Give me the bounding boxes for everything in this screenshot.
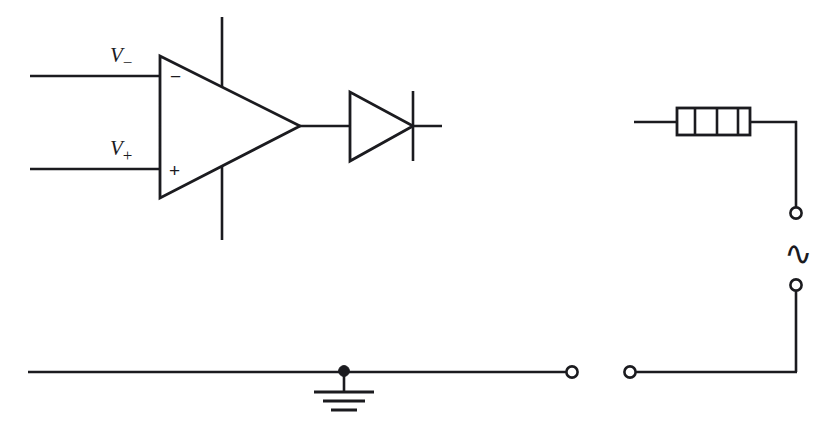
output-terminal-left[interactable] bbox=[566, 366, 577, 377]
ac-terminal-bottom[interactable] bbox=[790, 279, 801, 290]
opamp-inverting-sign: − bbox=[170, 66, 181, 87]
output-terminal-right[interactable] bbox=[624, 366, 635, 377]
diode-anode-triangle bbox=[350, 92, 413, 161]
diode-group bbox=[299, 91, 442, 161]
load-branch-group: ∿ bbox=[624, 108, 812, 378]
inverting-input-label: V− bbox=[110, 43, 132, 72]
noninverting-input-label-sub: + bbox=[123, 146, 133, 165]
opamp-group: − + V− V+ bbox=[30, 17, 300, 240]
circuit-diagram: − + V− V+ bbox=[0, 0, 830, 429]
noninverting-input-label: V+ bbox=[110, 136, 132, 165]
ac-terminal-top[interactable] bbox=[790, 207, 801, 218]
opamp-noninverting-sign: + bbox=[169, 160, 180, 181]
circuit-schematic-canvas: − + V− V+ bbox=[0, 0, 830, 429]
ac-source-symbol: ∿ bbox=[784, 235, 812, 272]
inverting-input-label-sub: − bbox=[123, 53, 133, 72]
ground-rail-group bbox=[28, 366, 578, 410]
